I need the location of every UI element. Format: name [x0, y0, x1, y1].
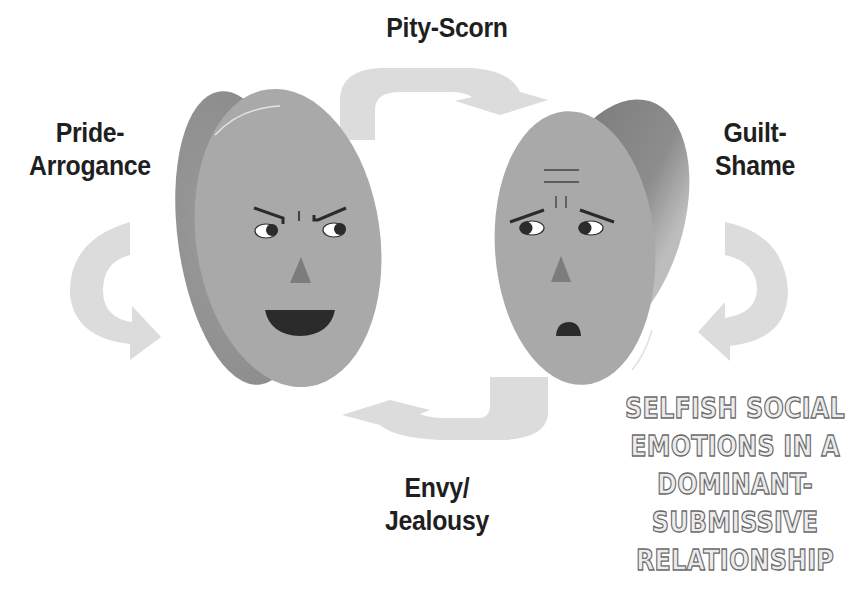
- arrow-right-loop-icon: [698, 222, 788, 361]
- label-pity-scorn: Pity-Scorn: [369, 12, 525, 45]
- label-line: Guilt-: [695, 117, 815, 150]
- arrow-left-loop-icon: [70, 222, 161, 360]
- label-line: Jealousy: [368, 505, 506, 538]
- label-line: Pride-: [16, 117, 163, 150]
- title-block: SELFISH SOCIAL EMOTIONS IN A DOMINANT- S…: [613, 390, 857, 580]
- title-line: SELFISH SOCIAL: [613, 390, 857, 428]
- submissive-face: [486, 79, 719, 390]
- title-line: RELATIONSHIP: [613, 542, 857, 580]
- arrow-top-icon: [340, 68, 548, 140]
- arrow-bottom-icon: [342, 377, 548, 440]
- label-line: Arrogance: [16, 150, 163, 183]
- label-line: Envy/: [368, 472, 506, 505]
- label-guilt-shame: Guilt- Shame: [695, 117, 815, 183]
- title-line: DOMINANT-: [613, 466, 857, 504]
- title-line: EMOTIONS IN A: [613, 428, 857, 466]
- label-pride-arrogance: Pride- Arrogance: [16, 117, 163, 183]
- title-line: SUBMISSIVE: [613, 504, 857, 542]
- diagram-canvas: Pity-Scorn Pride- Arrogance Guilt- Shame…: [0, 0, 868, 609]
- label-line: Shame: [695, 150, 815, 183]
- label-envy-jealousy: Envy/ Jealousy: [368, 472, 506, 538]
- label-line: Pity-Scorn: [369, 12, 525, 45]
